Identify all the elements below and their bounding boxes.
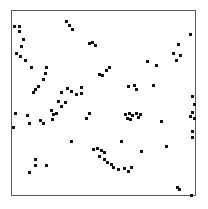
scatter-plot-figure: [0, 0, 208, 209]
plot-frame: [11, 10, 196, 196]
